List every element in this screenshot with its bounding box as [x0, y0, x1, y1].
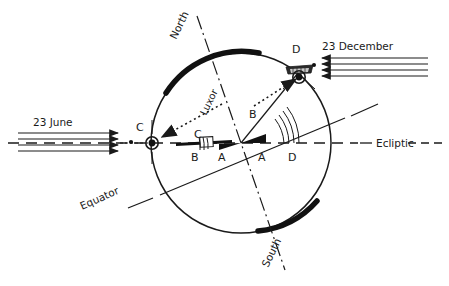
june-label: 23 June [33, 116, 73, 128]
diagram-canvas: Ecliptic North South Equator Luxor [0, 0, 449, 286]
d-stem-right [306, 81, 315, 89]
equator-line-ext-left [128, 198, 153, 208]
dotted-arrow-to-c [162, 104, 222, 137]
june-ray-group [18, 133, 118, 151]
beam-left-gap [200, 137, 214, 148]
point-d-inner-label: D [288, 151, 296, 164]
c-dot-inner [149, 140, 156, 147]
equator-label: Equator [78, 184, 121, 212]
equator-line-ext-right [351, 104, 378, 116]
angle-a-right-label: A [258, 151, 266, 164]
december-label: 23 December [322, 40, 394, 52]
luxor-label: Luxor [198, 86, 220, 116]
c-satellite-dot [129, 140, 133, 144]
angle-b-right-label: B [249, 108, 257, 121]
ecliptic-label: Ecliptic [376, 137, 414, 149]
polar-shade-arc-north [166, 51, 259, 93]
point-c-inner-label: C [194, 128, 202, 141]
astronomy-diagram-svg: Ecliptic North South Equator Luxor [0, 0, 449, 286]
north-label: North [167, 9, 191, 41]
angle-a-left-wedge [219, 143, 241, 150]
d-stem-left [283, 81, 293, 89]
point-c-outer-label: C [136, 121, 144, 134]
point-d-marker [283, 63, 316, 89]
angle-b-right-arcs [275, 107, 299, 143]
d-dot-inner [296, 74, 303, 81]
angle-b-left-label: B [191, 151, 199, 164]
point-d-outer-label: D [292, 43, 300, 56]
d-satellite-dot [312, 63, 316, 67]
december-ray-group [322, 58, 428, 76]
angle-a-left-label: A [218, 151, 226, 164]
